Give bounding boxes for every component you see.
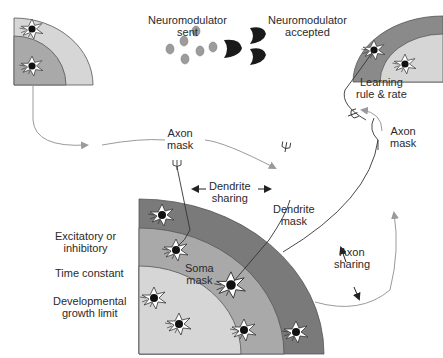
receptor-shapes xyxy=(224,27,266,65)
axon-mask-top-label: Axon mask xyxy=(167,127,193,151)
dendrite-sharing-label: Dendrite sharing xyxy=(209,180,251,204)
top-right-quadrant xyxy=(353,16,443,82)
neuromodulator-accepted-label: Neuromodulator accepted xyxy=(268,14,347,38)
axon-mask-right-label: Axon mask xyxy=(390,125,416,149)
time-constant-label: Time constant xyxy=(55,267,124,279)
dendrite-mask-label: Dendrite mask xyxy=(273,203,315,227)
axon-sharing-label: Axon sharing xyxy=(334,246,370,270)
learning-rule-label: Learning rule & rate xyxy=(356,76,407,100)
developmental-label: Developmental growth limit xyxy=(53,295,126,319)
neural-development-diagram: Neuromodulator sent Neuromodulator accep… xyxy=(0,0,443,358)
neuromodulator-sent-label: Neuromodulator sent xyxy=(148,14,227,38)
excitatory-label: Excitatory or inhibitory xyxy=(55,230,116,254)
top-left-quadrant xyxy=(14,18,93,85)
soma-mask-label: Soma mask xyxy=(185,262,214,286)
